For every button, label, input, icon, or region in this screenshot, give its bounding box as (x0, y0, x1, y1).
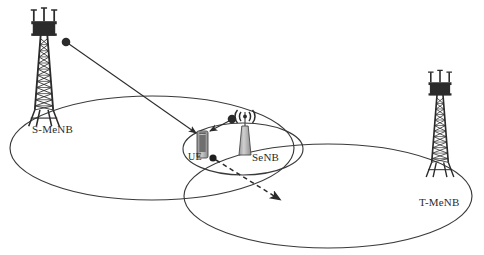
target-macro-tower (426, 70, 454, 177)
network-handover-diagram: S-MeNB T-MeNB UE SeNB (0, 0, 484, 255)
small-cell-antenna (235, 110, 255, 155)
label-user-equipment: UE (188, 151, 202, 162)
macro-to-ue-link (62, 38, 196, 133)
label-target-macro: T-MeNB (419, 196, 460, 208)
label-small-cell: SeNB (252, 151, 279, 163)
macro-link-origin-dot (62, 38, 71, 47)
source-macro-coverage-ellipse (10, 96, 294, 200)
label-source-macro: S-MeNB (32, 123, 73, 135)
source-macro-tower (29, 8, 60, 126)
small-cell-to-ue-link (210, 115, 236, 131)
ue-position-dot (209, 154, 216, 161)
